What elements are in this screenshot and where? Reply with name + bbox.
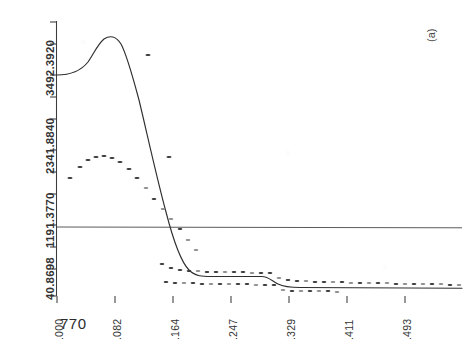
- x-tick-label-329: .329: [285, 319, 297, 340]
- y-tick-label-2341: 2341.8840: [44, 118, 56, 174]
- x-tick-label-247: .247: [227, 319, 239, 340]
- reference-line: [57, 227, 462, 228]
- y-tick-label-40: 40.8698: [44, 257, 56, 300]
- scatter-lower-band: [160, 263, 462, 286]
- x-tick-label-411: .411: [343, 320, 355, 340]
- x-tick-label-493: .493: [401, 319, 413, 340]
- y-tick-label-3492: 3492.3920: [44, 40, 56, 96]
- x-axis: [57, 296, 405, 303]
- scatter-upper-arc: [67, 155, 198, 251]
- y-tick-label-1191: 1191.3770: [44, 192, 56, 248]
- figure-caption: 770: [60, 315, 87, 332]
- panel-identifier: (a): [425, 29, 437, 42]
- x-tick-label-164: .164: [169, 319, 181, 340]
- x-tick-label-082: .082: [111, 319, 123, 340]
- figure-panel: 3492.3920 2341.8840 1191.3770 40.8698 .0…: [0, 0, 464, 347]
- plot-svg: [0, 0, 464, 347]
